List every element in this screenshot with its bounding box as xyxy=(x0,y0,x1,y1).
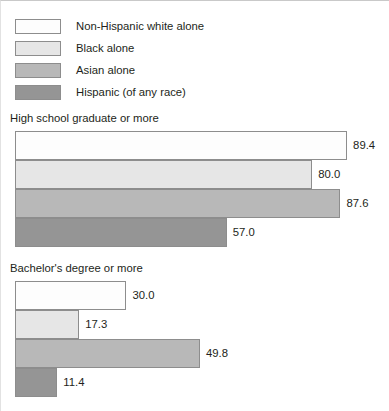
chart-legend: Non-Hispanic white alone Black alone Asi… xyxy=(15,16,355,104)
bar-row: 17.3 xyxy=(15,310,375,339)
bar xyxy=(15,218,227,247)
legend-item: Asian alone xyxy=(15,60,355,81)
plot-area: 30.0 17.3 49.8 11.4 xyxy=(15,281,375,397)
legend-swatch-icon xyxy=(15,63,61,78)
plot-area: 89.4 80.0 87.6 57.0 xyxy=(15,131,375,247)
bar-value-label: 30.0 xyxy=(132,290,154,301)
legend-item: Non-Hispanic white alone xyxy=(15,16,355,37)
bar-value-label: 49.8 xyxy=(206,348,228,359)
bar xyxy=(15,189,340,218)
legend-swatch-icon xyxy=(15,85,61,100)
bar xyxy=(15,160,312,189)
legend-item: Black alone xyxy=(15,38,355,59)
bar-value-label: 80.0 xyxy=(318,169,340,180)
legend-item-label: Asian alone xyxy=(76,65,135,76)
legend-item-label: Black alone xyxy=(76,43,134,54)
chart-title: High school graduate or more xyxy=(10,113,159,124)
bar-row: 89.4 xyxy=(15,131,375,160)
legend-item-label: Hispanic (of any race) xyxy=(76,87,186,98)
bar-value-label: 17.3 xyxy=(85,319,107,330)
bar-row: 80.0 xyxy=(15,160,375,189)
bar-value-label: 87.6 xyxy=(346,198,368,209)
bar xyxy=(15,368,57,397)
bar-row: 11.4 xyxy=(15,368,375,397)
legend-item: Hispanic (of any race) xyxy=(15,82,355,103)
chart-title: Bachelor's degree or more xyxy=(10,263,143,274)
legend-swatch-icon xyxy=(15,19,61,34)
bar xyxy=(15,339,200,368)
bar xyxy=(15,281,126,310)
bar-row: 87.6 xyxy=(15,189,375,218)
legend-swatch-icon xyxy=(15,41,61,56)
bar xyxy=(15,310,79,339)
bar-value-label: 89.4 xyxy=(353,140,375,151)
bar-row: 49.8 xyxy=(15,339,375,368)
bar xyxy=(15,131,347,160)
figure-container: Non-Hispanic white alone Black alone Asi… xyxy=(0,0,389,411)
bar-row: 30.0 xyxy=(15,281,375,310)
bar-row: 57.0 xyxy=(15,218,375,247)
bar-value-label: 11.4 xyxy=(63,377,84,388)
bar-value-label: 57.0 xyxy=(233,227,255,238)
legend-item-label: Non-Hispanic white alone xyxy=(76,21,204,32)
